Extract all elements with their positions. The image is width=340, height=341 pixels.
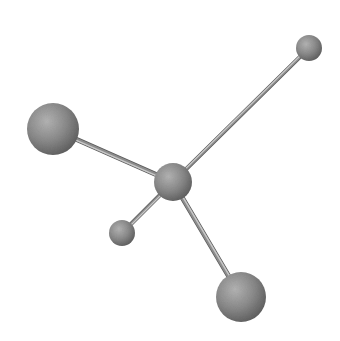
atom-lower-right-large: large atom (lower right) xyxy=(216,272,266,322)
molecule-diagram: Ball-and-stick molecular model central a… xyxy=(0,0,340,341)
atom-upper-left-large: large atom (upper left) xyxy=(27,103,79,155)
atom-upper-right-small: small atom (upper right) xyxy=(296,35,322,61)
molecule-canvas: central atomlarge atom (upper left)large… xyxy=(0,0,340,341)
atom-center: central atom xyxy=(154,163,192,201)
bond-upper-right-small xyxy=(172,47,309,182)
atom-lower-left-small: small atom (lower left) xyxy=(109,220,135,246)
